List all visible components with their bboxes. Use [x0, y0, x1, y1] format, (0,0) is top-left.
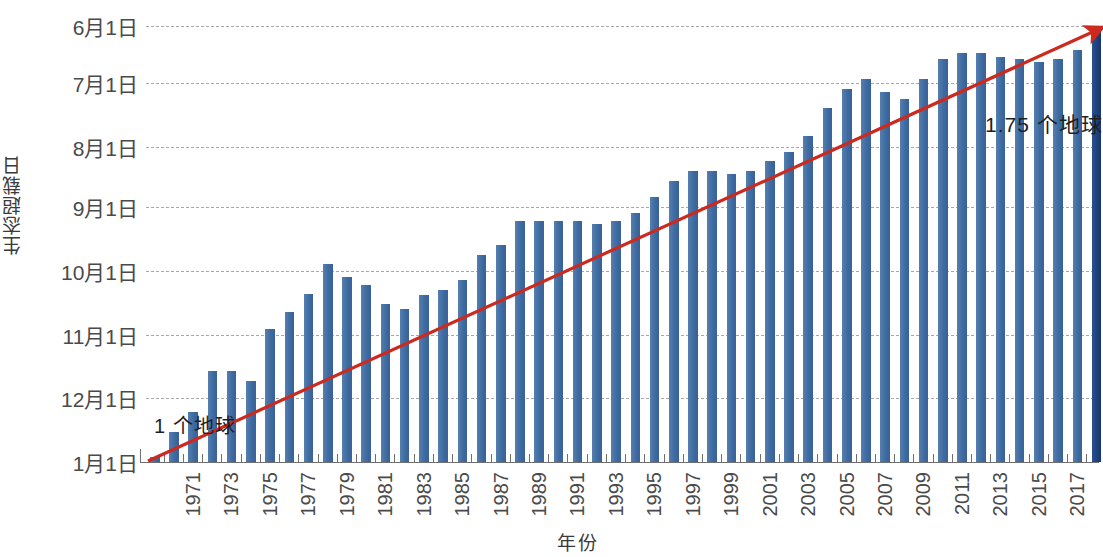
y-axis-tick-label: 11月1日 [63, 320, 138, 350]
x-axis-tick-labels: 1971197319751977197919811983198519871989… [0, 470, 1103, 530]
x-axis-tick-label: 2005 [836, 472, 859, 517]
bar [823, 108, 833, 462]
y-axis-tick-label: 7月1日 [73, 68, 138, 98]
bar [477, 255, 487, 462]
x-axis-tick-label: 1981 [374, 472, 397, 517]
x-axis-tick-label: 1993 [605, 472, 628, 517]
bar [957, 53, 967, 462]
x-axis-tick-label: 1971 [182, 472, 205, 517]
bar [631, 213, 641, 462]
x-axis-tick-label: 2015 [1028, 472, 1051, 517]
bar [919, 79, 929, 462]
y-axis-tick-label: 6月1日 [73, 11, 138, 41]
bar [1092, 26, 1102, 462]
bar [842, 89, 852, 462]
x-axis-tick-label: 1987 [490, 472, 513, 517]
gridline [146, 147, 1099, 148]
x-axis-tick-label: 1975 [259, 472, 282, 517]
bar [592, 224, 602, 462]
bar [900, 99, 910, 462]
gridline [146, 83, 1099, 84]
x-axis-tick-label: 2017 [1066, 472, 1089, 517]
bar [784, 152, 794, 462]
bar [304, 294, 314, 462]
bar [515, 221, 525, 462]
bar [707, 171, 717, 462]
x-axis-tick-label: 2011 [951, 472, 974, 515]
annotation-one-earth: 1 个地球 [154, 410, 236, 439]
y-axis-tick-label: 8月1日 [73, 132, 138, 162]
bar [611, 221, 621, 462]
x-axis-tick-label: 2009 [912, 472, 935, 517]
x-axis-title-text: 年份 [557, 533, 599, 554]
bar [265, 329, 275, 462]
bar [861, 79, 871, 462]
x-axis-line [140, 462, 1099, 463]
bar [803, 136, 813, 462]
bar [400, 309, 410, 462]
x-axis-tick-label: 1989 [528, 472, 551, 517]
x-axis-tick-label: 1977 [297, 472, 320, 517]
bar [938, 59, 948, 462]
bar [285, 312, 295, 462]
x-axis-tick-label: 1973 [220, 472, 243, 517]
x-axis-title: 年份 [0, 528, 1103, 555]
bar [419, 295, 429, 462]
bar [246, 381, 256, 462]
bar [573, 221, 583, 462]
bar [496, 245, 506, 462]
x-axis-tick-label: 2013 [989, 472, 1012, 517]
y-axis-title: 生态超载日 [2, 155, 28, 255]
bar [438, 290, 448, 462]
annotation-1-75-earths: 1.75 个地球 [985, 108, 1103, 138]
bar [342, 277, 352, 462]
bar [746, 171, 756, 462]
x-axis-tick-label: 2007 [874, 472, 897, 517]
chart-container: 生态超载日 6月1日7月1日8月1日9月1日10月1日11月1日12月1日1月1… [0, 0, 1103, 557]
x-axis-tick-label: 2003 [797, 472, 820, 517]
bar [361, 285, 371, 462]
bar [554, 221, 564, 462]
y-axis-line [140, 449, 141, 463]
bar [534, 221, 544, 462]
bar [727, 174, 737, 462]
bar [688, 171, 698, 462]
x-axis-tick-label: 1999 [720, 472, 743, 517]
plot-area [146, 0, 1099, 470]
bar [323, 264, 333, 462]
bar [381, 304, 391, 462]
bar [880, 92, 890, 462]
x-axis-tick-label: 1991 [566, 472, 589, 517]
gridline [146, 271, 1099, 272]
x-axis-tick-label: 1983 [413, 472, 436, 517]
bar [458, 280, 468, 462]
y-axis-tick-label: 10月1日 [61, 256, 138, 286]
bar [765, 161, 775, 462]
bar [650, 197, 660, 462]
gridline [146, 26, 1099, 27]
gridline [146, 207, 1099, 208]
y-axis-tick-label: 12月1日 [61, 383, 138, 413]
bar [669, 181, 679, 462]
y-axis-tick-label: 9月1日 [73, 192, 138, 222]
x-axis-tick-label: 2001 [759, 472, 782, 517]
x-axis-tick-label: 1995 [643, 472, 666, 517]
x-axis-tick-label: 1985 [451, 472, 474, 517]
x-axis-tick-label: 1997 [682, 472, 705, 517]
x-axis-tick-label: 1979 [336, 472, 359, 517]
